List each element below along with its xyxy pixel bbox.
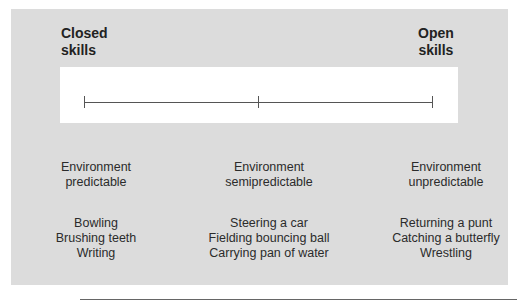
column-semipredictable: Environment semipredictable Steering a c… [189,160,349,261]
example-item: Brushing teeth [16,231,176,246]
examples-list: Steering a car Fielding bouncing ball Ca… [189,216,349,261]
open-skills-line1: Open [418,25,454,42]
open-skills-line2: skills [418,42,454,59]
continuum-strip [60,67,458,123]
environment-label: Environment predictable [16,160,176,190]
environment-line2: semipredictable [189,175,349,190]
closed-skills-label: Closed skills [61,25,108,59]
closed-skills-line2: skills [61,42,108,59]
tick-middle [258,96,259,108]
example-item: Returning a punt [366,216,517,231]
environment-line1: Environment [16,160,176,175]
closed-skills-line1: Closed [61,25,108,42]
column-predictable: Environment predictable Bowling Brushing… [16,160,176,261]
environment-label: Environment semipredictable [189,160,349,190]
continuum-line [84,102,433,103]
example-item: Carrying pan of water [189,246,349,261]
examples-list: Bowling Brushing teeth Writing [16,216,176,261]
open-skills-label: Open skills [418,25,454,59]
diagram-panel: Closed skills Open skills Environment pr… [11,9,508,285]
environment-line2: unpredictable [366,175,517,190]
example-item: Writing [16,246,176,261]
tick-closed [84,96,85,108]
tick-open [432,96,433,108]
environment-label: Environment unpredictable [366,160,517,190]
examples-list: Returning a punt Catching a butterfly Wr… [366,216,517,261]
example-item: Wrestling [366,246,517,261]
environment-line1: Environment [366,160,517,175]
example-item: Steering a car [189,216,349,231]
bottom-divider [80,299,517,300]
example-item: Fielding bouncing ball [189,231,349,246]
environment-line2: predictable [16,175,176,190]
example-item: Bowling [16,216,176,231]
environment-line1: Environment [189,160,349,175]
example-item: Catching a butterfly [366,231,517,246]
column-unpredictable: Environment unpredictable Returning a pu… [366,160,517,261]
